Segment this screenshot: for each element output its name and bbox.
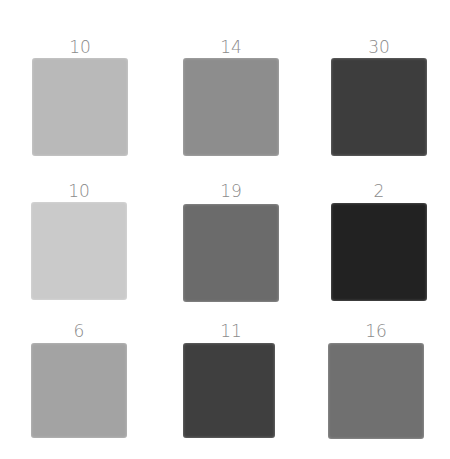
swatch-label: 11 [183, 322, 279, 340]
gray-swatch [31, 202, 127, 300]
swatch-label: 16 [328, 322, 424, 340]
gray-swatch [328, 343, 424, 439]
swatch-label: 30 [331, 38, 427, 56]
gray-swatch [183, 343, 275, 438]
gray-swatch [32, 58, 128, 156]
swatch-label: 6 [31, 322, 127, 340]
swatch-label: 10 [32, 38, 128, 56]
swatch-label: 10 [31, 182, 127, 200]
swatch-label: 19 [183, 182, 279, 200]
swatch-label: 2 [331, 182, 427, 200]
gray-swatch [331, 203, 427, 301]
gray-swatch [183, 204, 279, 302]
gray-swatch [183, 58, 279, 156]
gray-swatch [331, 58, 427, 156]
gray-swatch [31, 343, 127, 438]
swatch-label: 14 [183, 38, 279, 56]
